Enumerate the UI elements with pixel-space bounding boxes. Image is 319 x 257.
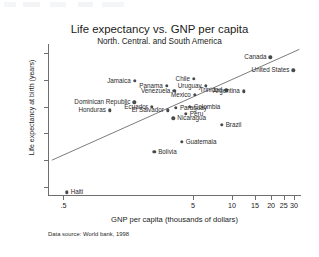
point-label: El Salvador	[132, 107, 164, 113]
x-tick-mark	[294, 196, 295, 200]
x-tick-label: 5	[191, 201, 195, 210]
point-label: Venezuela	[141, 88, 170, 94]
x-tick-label: 15	[251, 201, 259, 210]
plot-area: CanadaUnited StatesJamaicaChilePanamaUru…	[48, 44, 301, 196]
x-tick-mark	[271, 196, 272, 200]
x-tick-mark	[232, 196, 233, 200]
point-label: Mexico	[171, 92, 191, 98]
point-label: Guatemala	[186, 138, 217, 144]
data-source-note: Data source: World bank, 1998	[48, 231, 129, 237]
point-label: Bolivia	[158, 149, 177, 155]
x-tick-label: .5	[60, 201, 66, 210]
point-label: Jamaica	[107, 77, 130, 83]
plot-inner: CanadaUnited StatesJamaicaChilePanamaUru…	[49, 44, 301, 195]
x-tick-mark	[63, 196, 64, 200]
point-label: Haiti	[71, 189, 84, 195]
point-label: Brazil	[226, 122, 242, 128]
point-label: Canada	[244, 54, 266, 60]
y-axis-label: Life expectancy at birth (years)	[28, 28, 35, 188]
chart-title: Life expectancy vs. GNP per capita	[0, 23, 319, 35]
point-label: Argentina	[213, 88, 240, 94]
x-tick-label: 30	[290, 201, 298, 210]
x-tick-label: 10	[228, 201, 236, 210]
point-label: Honduras	[79, 107, 106, 113]
capture-artifact	[4, 2, 124, 7]
point-label: Colombia	[194, 103, 221, 109]
chart-figure: Life expectancy vs. GNP per capita North…	[0, 0, 319, 257]
x-tick-mark	[284, 196, 285, 200]
x-tick-mark	[193, 196, 194, 200]
x-tick-label: 20	[267, 201, 275, 210]
point-label: Dominican Republic	[74, 99, 130, 105]
x-tick-mark	[255, 196, 256, 200]
point-label: Uruguay	[178, 82, 202, 88]
point-label: Nicaragua	[177, 115, 206, 121]
x-axis-label: GNP per capita (thousands of dollars)	[48, 215, 301, 224]
x-tick-label: 25	[280, 201, 288, 210]
point-label: United States	[252, 67, 290, 73]
